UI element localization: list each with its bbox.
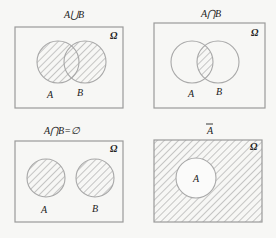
set-a-label: A [187,88,195,99]
set-a-label: A [40,204,48,215]
panel-title-union: A⋃B [63,9,84,20]
panel-title-intersection: A⋂B [200,8,221,19]
set-b-label: B [77,87,83,98]
universe-label: Ω [250,141,258,152]
panel-intersection: A⋂B Ω A B [154,8,265,108]
panel-title-disjoint: A⋂B=∅ [43,125,81,136]
set-a-label: A [46,89,54,100]
universe-label: Ω [110,143,118,154]
venn-diagram-figure: A⋃B Ω A B A⋂B Ω A B A⋂B=∅ Ω A B A [0,0,276,238]
panel-union: A⋃B Ω A B [15,9,123,108]
universe-label: Ω [251,27,259,38]
panel-disjoint: A⋂B=∅ Ω A B [15,125,123,222]
universe-label: Ω [110,30,118,41]
set-a-label: A [192,173,200,184]
panel-title-complement: A [206,125,214,136]
panel-complement: A Ω A [154,124,262,222]
set-b-label: B [92,203,98,214]
set-b-label: B [216,86,222,97]
